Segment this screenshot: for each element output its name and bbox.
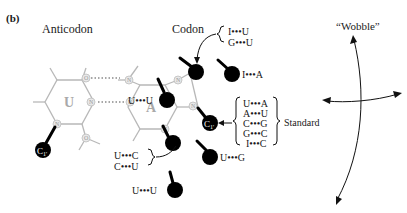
wobble-arrow-horizontal [327,94,398,102]
svg-text:N: N [191,103,196,109]
lower-right-pair: U•••G [220,153,245,163]
standard-label: Standard [284,117,320,128]
svg-text:N: N [176,77,181,83]
standard-bracket-left [233,97,240,145]
lower-bracket [148,149,155,165]
top-right-pair: I•••A [242,70,263,80]
central-pair: U•••U [128,96,153,106]
lower-pair-1: U•••C [114,151,138,161]
svg-text:N: N [89,99,94,105]
wobble-heading: “Wobble” [336,20,380,32]
panel-label: (b) [6,12,19,24]
top-pair-2: G•••U [228,38,253,48]
wobble-arrow-vertical [337,40,361,200]
standard-bracket-right [273,97,280,145]
top-arrow [197,34,216,60]
svg-text:O: O [84,135,89,141]
wobble-positions [158,58,240,198]
ring-atoms: O N N O N N N N N [53,74,197,142]
anticodon-heading: Anticodon [42,22,93,37]
anticodon-base-label: U [64,95,74,110]
top-pair-1: I•••U [228,27,249,37]
svg-text:1': 1' [210,124,214,130]
svg-text:1': 1' [43,151,47,157]
standard-pair-5: I•••C [246,139,267,149]
codon-heading: Codon [172,22,204,37]
svg-text:O: O [84,75,89,81]
top-bracket [217,26,224,42]
lower-pair-2: C•••U [114,162,138,172]
bottom-pair: U•••U [132,186,157,196]
svg-text:N: N [127,77,132,83]
